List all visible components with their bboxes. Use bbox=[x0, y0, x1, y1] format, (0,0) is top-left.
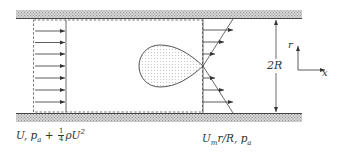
inlet-velocity-arrows bbox=[35, 31, 65, 102]
exponent-2: 2 bbox=[80, 128, 84, 136]
quarter-fraction: 14 bbox=[58, 128, 64, 143]
inlet-condition-label: U, pa + 14ρU2 bbox=[16, 128, 85, 144]
dynamic-pressure-term: ρU bbox=[65, 129, 80, 141]
bottom-wall bbox=[16, 114, 302, 123]
coordinate-axes bbox=[298, 46, 325, 70]
axis-x-label: x bbox=[322, 67, 328, 78]
outlet-U: U bbox=[202, 132, 211, 144]
dimension-2R-label: 2R bbox=[267, 59, 282, 72]
plus-sign: + bbox=[41, 129, 56, 141]
recirculation-bubble bbox=[139, 45, 203, 87]
inlet-velocity-pressure: U, p bbox=[16, 129, 37, 141]
outlet-sub-a: a bbox=[247, 139, 251, 147]
outlet-condition-label: Umr/R, pa bbox=[202, 132, 252, 147]
outlet-sub-m: m bbox=[211, 139, 218, 147]
axis-r-label: r bbox=[288, 39, 293, 50]
outlet-r-over-R-pressure: r/R, p bbox=[218, 132, 248, 144]
top-wall bbox=[16, 10, 302, 19]
outlet-velocity-profile bbox=[203, 19, 233, 113]
